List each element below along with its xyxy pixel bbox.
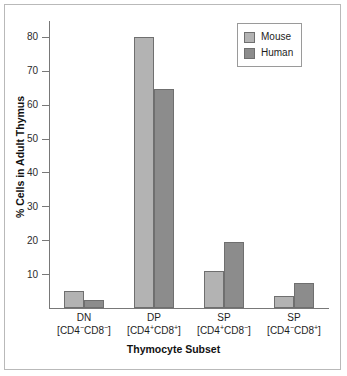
bar-human[interactable] — [224, 242, 244, 308]
y-axis-tick: 10 — [42, 274, 49, 275]
category-abbreviation: SP — [249, 311, 339, 324]
x-axis-title: Thymocyte Subset — [5, 343, 342, 355]
y-axis-tick-label: 60 — [27, 100, 38, 110]
bar-group — [64, 21, 104, 308]
bar-human[interactable] — [294, 283, 314, 308]
y-axis-tick-label: 70 — [27, 66, 38, 76]
y-axis-title: % Cells in Adult Thymus — [11, 5, 29, 309]
y-axis-tick: 20 — [42, 240, 49, 241]
y-axis-tick: 50 — [42, 139, 49, 140]
y-axis-tick-label: 40 — [27, 168, 38, 178]
y-axis-tick-label: 20 — [27, 236, 38, 246]
figure-frame: % Cells in Adult Thymus 1020304050607080… — [4, 4, 341, 370]
bar-mouse[interactable] — [204, 271, 224, 308]
y-axis-tick: 40 — [42, 172, 49, 173]
y-axis-tick-label: 80 — [27, 32, 38, 42]
y-axis-tick: 60 — [42, 105, 49, 106]
y-axis-tick: 70 — [42, 71, 49, 72]
bar-group — [134, 21, 174, 308]
y-axis-tick-label: 30 — [27, 202, 38, 212]
bar-human[interactable] — [154, 89, 174, 308]
legend-label-human: Human — [261, 48, 293, 58]
y-axis-title-text: % Cells in Adult Thymus — [14, 96, 26, 218]
human-swatch-icon — [244, 48, 255, 59]
legend-label-mouse: Mouse — [261, 32, 291, 42]
category-phenotype: [CD4−CD8+] — [249, 324, 339, 337]
x-axis-line — [49, 308, 329, 309]
mouse-swatch-icon — [244, 32, 255, 43]
y-axis-tick: 80 — [42, 37, 49, 38]
chart-legend: Mouse Human — [237, 23, 302, 67]
bar-human[interactable] — [84, 300, 104, 308]
legend-item-mouse[interactable]: Mouse — [244, 29, 293, 45]
y-axis-tick-label: 10 — [27, 270, 38, 280]
y-axis-line — [49, 21, 50, 309]
bar-mouse[interactable] — [134, 37, 154, 308]
y-axis-tick-label: 50 — [27, 134, 38, 144]
bar-mouse[interactable] — [64, 291, 84, 308]
bar-mouse[interactable] — [274, 296, 294, 308]
legend-item-human[interactable]: Human — [244, 45, 293, 61]
x-axis-category-label: SP[CD4−CD8+] — [249, 311, 339, 337]
y-axis-tick: 30 — [42, 206, 49, 207]
